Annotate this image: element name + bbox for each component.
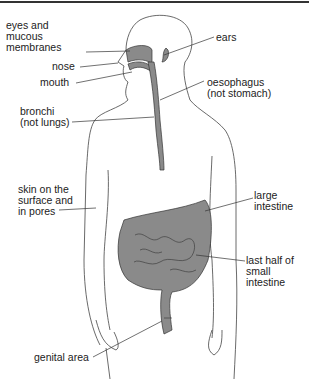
label-eyes: eyes and mucous membranes [6, 20, 86, 53]
oesophagus-tube [148, 62, 164, 170]
label-large-intestine: large intestine [254, 190, 293, 212]
label-bronchi: bronchi (not lungs) [20, 106, 70, 128]
leader-nose [80, 63, 118, 67]
leader-mouth [76, 72, 132, 83]
leader-eyes [86, 51, 130, 52]
label-ears: ears [216, 32, 236, 43]
leader-large-intestine [205, 198, 253, 211]
label-skin: skin on the surface and in pores [18, 184, 73, 217]
leader-oesophagus [160, 81, 204, 100]
label-mouth: mouth [40, 77, 69, 88]
leader-ears [164, 37, 214, 55]
nasal-cavity [126, 46, 152, 65]
leader-bronchi [72, 117, 154, 122]
label-oesophagus: oesophagus (not stomach) [207, 77, 271, 99]
left-leg [106, 348, 110, 379]
right-hand [209, 330, 223, 355]
label-genital: genital area [34, 352, 89, 363]
label-small-intestine: last half of small intestine [246, 255, 294, 288]
large-intestine [118, 200, 211, 334]
left-arm-inner [104, 170, 110, 330]
ear [162, 48, 169, 62]
label-nose: nose [52, 61, 75, 72]
